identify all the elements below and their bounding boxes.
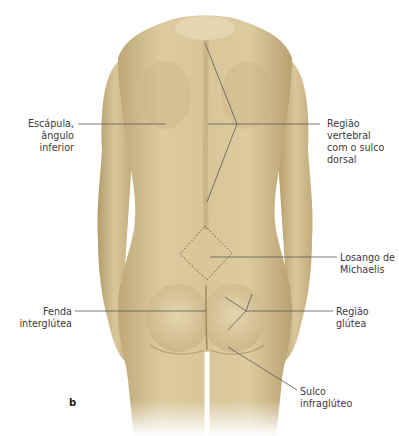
label-line: Escápula, [8,118,74,130]
label-losango-de-michaelis: Losango de Michaelis [340,252,395,276]
label-line: Região [336,306,369,318]
label-escapula-angulo-inferior: Escápula, ângulo inferior [8,118,74,154]
label-regiao-glutea: Região glútea [336,306,369,330]
label-line: interglútea [4,318,72,330]
panel-letter: b [69,397,76,408]
label-line: infraglúteo [300,398,352,410]
label-fenda-interglutea: Fenda interglútea [4,306,72,330]
label-regiao-vertebral: Região vertebral com o sulco dorsal [327,118,384,166]
label-line: inferior [8,142,74,154]
label-line: Michaelis [340,264,395,276]
label-line: Região [327,118,384,130]
label-line: ângulo [8,130,74,142]
body-illustration [0,0,399,436]
label-line: dorsal [327,154,384,166]
label-line: glútea [336,318,369,330]
label-line: Fenda [4,306,72,318]
label-line: com o sulco [327,142,384,154]
label-line: vertebral [327,130,384,142]
label-line: Losango de [340,252,395,264]
anatomy-figure: Escápula, ângulo inferior Região vertebr… [0,0,399,436]
label-sulco-infragluteo: Sulco infraglúteo [300,386,352,410]
label-line: Sulco [300,386,352,398]
